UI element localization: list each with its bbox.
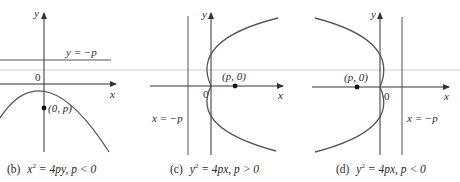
focus-point [233,84,238,89]
origin-label: 0 [35,71,41,83]
directrix-label: y = −p [65,46,97,58]
focus-label: (0, p) [48,102,72,115]
focus-point [355,85,360,90]
panel-c: y x x = −p 0 (p, 0) (c) y2 = 4px, p > 0 [150,8,283,176]
panel-d: y x x = −p 0 (p, 0) (d) y2 = 4px, p < 0 [312,8,449,176]
parabola-figure: y x y = −p 0 (0, p) (b) x2 = 4py, p < 0 … [0,0,460,182]
focus-point [42,106,47,111]
parabola-curve [0,91,109,152]
caption-c: (c) y2 = 4px, p > 0 [170,162,259,176]
directrix-label: x = −p [151,112,183,124]
x-axis-label: x [277,89,283,101]
focus-label: (p, 0) [222,70,246,83]
y-axis-label: y [370,8,376,20]
y-axis-label: y [201,8,207,20]
origin-label: 0 [384,90,390,102]
focus-label: (p, 0) [344,71,368,84]
x-axis-label: x [443,90,449,102]
x-axis-label: x [109,88,115,100]
caption-b: (b) x2 = 4py, p < 0 [7,162,96,176]
y-axis-label: y [33,7,39,19]
caption-d: (d) y2 = 4px, p < 0 [336,162,426,176]
parabola-curve [207,18,278,151]
panel-b: y x y = −p 0 (0, p) (b) x2 = 4py, p < 0 [0,7,116,176]
directrix-label: x = −p [406,112,438,124]
parabola-curve [315,18,384,152]
